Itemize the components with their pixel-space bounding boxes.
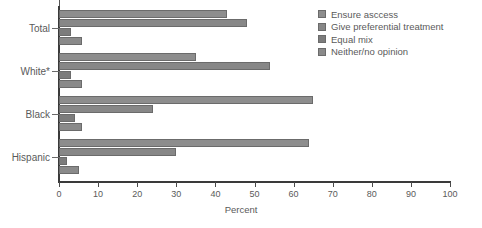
x-axis-tick	[372, 182, 373, 187]
x-axis-tick-label: 20	[132, 189, 142, 199]
bar	[59, 10, 227, 18]
bar	[59, 105, 153, 113]
x-axis-tick	[255, 182, 256, 187]
bar	[59, 19, 247, 27]
x-axis-tick-label: 100	[442, 189, 457, 199]
bar	[59, 123, 82, 131]
legend-swatch-icon	[318, 48, 326, 56]
x-axis-tick-label: 10	[93, 189, 103, 199]
legend-item: Ensure asccess	[318, 8, 478, 21]
chart-legend: Ensure asccessGive preferential treatmen…	[318, 8, 478, 58]
x-axis-tick-label: 80	[367, 189, 377, 199]
legend-label: Give preferential treatment	[331, 22, 443, 32]
x-axis-tick	[59, 182, 60, 187]
legend-item: Equal mix	[318, 33, 478, 46]
legend-item: Give preferential treatment	[318, 21, 478, 34]
x-axis-tick-label: 50	[249, 189, 259, 199]
x-axis-tick	[294, 182, 295, 187]
x-axis-tick-label: 70	[328, 189, 338, 199]
x-axis-tick-label: 90	[406, 189, 416, 199]
bar-chart: TotalWhite*BlackHispanic Percent Ensure …	[0, 0, 482, 228]
bar	[59, 96, 313, 104]
x-axis-tick	[411, 182, 412, 187]
x-axis-tick	[137, 182, 138, 187]
category-label-hispanic: Hispanic	[12, 151, 50, 162]
x-axis-tick	[450, 182, 451, 187]
x-axis-tick	[215, 182, 216, 187]
legend-swatch-icon	[318, 10, 326, 18]
category-tick	[52, 114, 59, 115]
category-tick	[52, 157, 59, 158]
bar	[59, 53, 196, 61]
bar	[59, 28, 71, 36]
scan-edge	[0, 222, 482, 228]
x-axis-tick	[98, 182, 99, 187]
legend-swatch-icon	[318, 23, 326, 31]
legend-swatch-icon	[318, 35, 326, 43]
x-axis-tick-label: 30	[171, 189, 181, 199]
x-axis-tick-label: 60	[289, 189, 299, 199]
x-axis-tick	[333, 182, 334, 187]
bar	[59, 62, 270, 70]
bar	[59, 148, 176, 156]
category-label-white: White*	[21, 65, 50, 76]
bar	[59, 157, 67, 165]
x-axis-tick	[176, 182, 177, 187]
legend-label: Neither/no opinion	[331, 47, 408, 57]
category-label-black: Black	[26, 108, 50, 119]
category-tick	[52, 71, 59, 72]
legend-label: Equal mix	[331, 35, 373, 45]
bar	[59, 71, 71, 79]
bar	[59, 166, 79, 174]
x-axis-tick-label: 0	[56, 189, 61, 199]
bar	[59, 139, 309, 147]
legend-label: Ensure asccess	[331, 10, 398, 20]
category-label-total: Total	[29, 22, 50, 33]
bar	[59, 37, 82, 45]
bar	[59, 114, 75, 122]
x-axis-tick-label: 40	[210, 189, 220, 199]
x-axis-title: Percent	[0, 204, 482, 215]
legend-item: Neither/no opinion	[318, 46, 478, 59]
bar	[59, 80, 82, 88]
category-tick	[52, 28, 59, 29]
category-axis-labels: TotalWhite*BlackHispanic	[0, 0, 50, 228]
